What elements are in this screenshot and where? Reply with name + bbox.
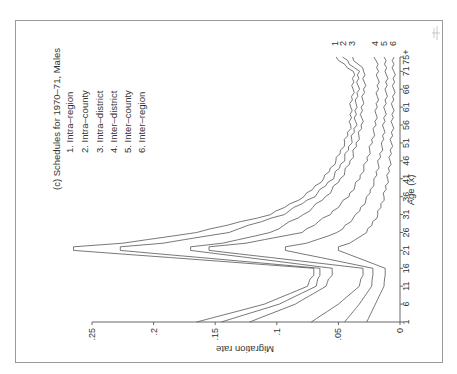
age-axis-title: Age (x) — [405, 175, 416, 206]
series-line-2 — [120, 57, 359, 322]
age-tick-label: 56 — [401, 120, 411, 130]
legend-item-1: 1. Intra–region — [64, 92, 75, 153]
legend-item-2: 2. Intra–county — [79, 90, 90, 153]
series-end-label-6: 6 — [388, 41, 398, 46]
age-tick-label: 1 — [401, 319, 411, 324]
legend-item-5: 5. Inter–county — [122, 90, 133, 153]
age-tick-label: 66 — [401, 84, 411, 94]
series-line-4 — [209, 57, 379, 322]
migration-rate-ticks: 0.05.1.15.2.25 — [87, 322, 405, 341]
age-tick-label: 26 — [401, 227, 411, 237]
legend-item-3: 3. Intra–district — [94, 90, 105, 153]
legend-item-4: 4. Inter–district — [108, 90, 119, 153]
series-end-labels: 123456 — [330, 41, 398, 46]
rate-tick-label: .25 — [87, 328, 97, 341]
age-tick-label: 31 — [401, 210, 411, 220]
age-tick-label: 21 — [401, 245, 411, 255]
rate-tick-label: .05 — [333, 328, 343, 341]
migration-rate-axis-title: Migration rate — [216, 344, 274, 355]
age-tick-label: 51 — [401, 138, 411, 148]
migration-rate-chart: 0.05.1.15.2.25 1611162126313641465156616… — [0, 0, 457, 374]
age-tick-label: 16 — [401, 263, 411, 273]
age-tick-label: 75+ — [401, 49, 411, 64]
age-tick-label: 46 — [401, 156, 411, 166]
rate-tick-label: 0 — [395, 328, 405, 333]
age-tick-label: 71 — [401, 66, 411, 76]
rate-tick-label: .1 — [272, 328, 282, 336]
age-tick-label: 6 — [401, 302, 411, 307]
age-tick-label: 11 — [401, 282, 411, 291]
series-line-3 — [191, 57, 366, 322]
legend: (c) Schedules for 1970–71, Males 1. Intr… — [51, 48, 147, 190]
corner-mark-icon — [432, 26, 440, 40]
age-tick-label: 61 — [401, 102, 411, 112]
series-line-5 — [285, 57, 388, 322]
rate-tick-label: .2 — [149, 328, 159, 336]
legend-item-6: 6. Inter–region — [136, 92, 147, 153]
series-end-label-3: 3 — [347, 41, 357, 46]
rate-tick-label: .15 — [210, 328, 220, 341]
legend-title: (c) Schedules for 1970–71, Males — [51, 48, 62, 190]
